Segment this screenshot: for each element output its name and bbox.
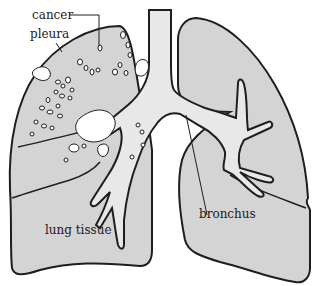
tumor-spot (50, 126, 54, 130)
pleura-label: pleura (30, 28, 69, 40)
tumor-spot (46, 98, 50, 103)
tumor-spot (40, 106, 45, 110)
tumor-spot (96, 68, 100, 72)
tumor-spot (130, 155, 134, 159)
tumor-spot (82, 144, 86, 148)
tumor-spot (30, 132, 34, 136)
tumor-spot (78, 59, 83, 65)
tumor-spot (66, 77, 71, 83)
tumor-spot (135, 59, 148, 76)
tumor-spot (64, 158, 68, 162)
tumor-spot (34, 120, 38, 124)
tumor-spot (113, 69, 118, 75)
tumor-spot (98, 144, 109, 157)
lung-tissue-label: lung tissue (45, 224, 112, 236)
tumor-spot (84, 66, 88, 71)
tumor-spot (42, 124, 47, 128)
tumor-spot (68, 96, 72, 100)
tumor-spot (56, 80, 61, 84)
tumor-spot (118, 63, 122, 68)
tumor-spot (58, 114, 63, 118)
left-lung (178, 18, 310, 282)
tumor-spot (69, 144, 79, 152)
tumor-spot (126, 42, 130, 48)
tumor-spot (128, 53, 132, 58)
tumor-spot (121, 32, 126, 39)
bronchus-label: bronchus (199, 208, 256, 220)
tumor-spot (136, 123, 140, 127)
tumor-spot (141, 143, 145, 147)
tumor-spot (60, 94, 65, 98)
tumor-spot (47, 110, 53, 114)
tumor-spot (124, 71, 128, 76)
tumor-spot (54, 90, 58, 94)
tumor-spot (90, 69, 94, 75)
tumor-spot (70, 88, 74, 92)
lung-illustration (0, 0, 320, 286)
left-lung-outline (178, 18, 310, 282)
tumor-spot (56, 104, 60, 108)
tumor-spot (140, 130, 144, 134)
tumor-spot (61, 84, 65, 88)
lung-diagram: cancer pleura lung tissue bronchus (0, 0, 320, 286)
cancer-label: cancer (32, 9, 73, 21)
